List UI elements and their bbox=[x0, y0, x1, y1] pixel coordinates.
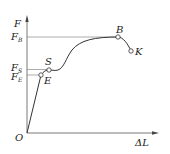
fb-label: FB bbox=[11, 32, 22, 43]
point-b-marker bbox=[116, 35, 120, 39]
fe-label: FE bbox=[11, 72, 22, 83]
x-axis-arrow-icon bbox=[152, 131, 159, 134]
point-k-marker bbox=[129, 49, 133, 53]
point-s-label: S bbox=[45, 57, 52, 67]
point-b-label: B bbox=[116, 25, 123, 35]
origin-label: O bbox=[15, 133, 23, 143]
point-k-label: K bbox=[135, 47, 142, 57]
y-axis-arrow-icon bbox=[25, 15, 28, 22]
point-s-marker bbox=[47, 68, 51, 72]
point-e-label: E bbox=[44, 76, 51, 86]
point-e-marker bbox=[39, 73, 43, 77]
y-axis-label: F bbox=[14, 19, 21, 29]
x-axis-label: ΔL bbox=[135, 138, 149, 148]
diagram-canvas bbox=[0, 0, 170, 154]
force-curve bbox=[27, 37, 131, 133]
force-elongation-diagram: F ΔL O FB FS FE E S B K bbox=[0, 0, 170, 154]
